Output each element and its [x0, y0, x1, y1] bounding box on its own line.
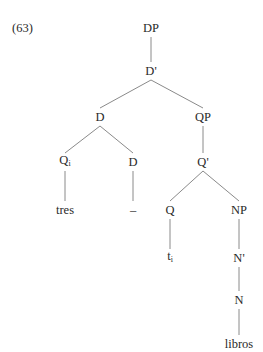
node-label: Q	[165, 203, 174, 217]
tree-node-d2: D	[128, 155, 137, 169]
tree-node-np: NP	[231, 203, 247, 217]
tree-node-ti: ti	[167, 249, 173, 267]
node-index-subscript: i	[68, 159, 70, 168]
tree-edges	[0, 0, 263, 352]
node-label: D	[95, 110, 104, 124]
node-label: Q	[59, 153, 68, 167]
tree-node-d1: D	[95, 110, 104, 124]
tree-node-tres: tres	[56, 203, 74, 217]
node-label: N	[234, 293, 243, 307]
tree-node-nbar: N'	[233, 251, 244, 265]
node-label: –	[130, 203, 136, 217]
syntax-tree-diagram: (63) DPD'DQPQiDQ'tres–QNPtiN'Nlibros	[0, 0, 263, 352]
tree-node-qi: Qi	[59, 153, 70, 171]
tree-edge	[203, 171, 239, 201]
example-number: (63)	[12, 21, 33, 35]
node-label: tres	[56, 203, 74, 217]
tree-node-dash: –	[130, 203, 136, 217]
tree-edge	[151, 80, 203, 108]
tree-node-dbar: D'	[145, 64, 156, 78]
tree-edge	[65, 126, 100, 153]
node-index-subscript: i	[171, 255, 173, 264]
tree-node-q: Q	[165, 203, 174, 217]
tree-node-dp: DP	[143, 21, 159, 35]
node-label: Q'	[197, 155, 208, 169]
tree-edge	[170, 171, 203, 201]
node-label: libros	[225, 337, 253, 351]
tree-node-qbar: Q'	[197, 155, 208, 169]
node-label: DP	[143, 21, 159, 35]
tree-node-libros: libros	[225, 337, 253, 351]
node-label: QP	[195, 110, 211, 124]
node-label: D'	[145, 64, 156, 78]
tree-edge	[100, 126, 133, 153]
node-label: N'	[233, 251, 244, 265]
node-label: D	[128, 155, 137, 169]
tree-node-qp: QP	[195, 110, 211, 124]
node-label: NP	[231, 203, 247, 217]
tree-node-n: N	[234, 293, 243, 307]
tree-edge	[100, 80, 151, 108]
